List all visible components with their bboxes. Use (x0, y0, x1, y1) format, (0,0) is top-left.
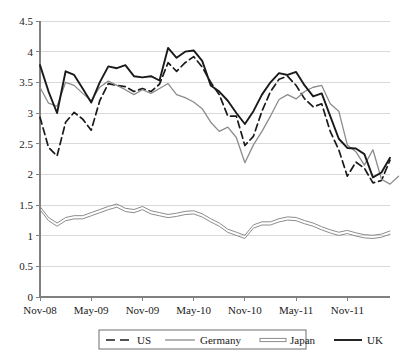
x-axis-tick-label: May-09 (74, 304, 109, 316)
chart-legend: USGermanyJapanUK (99, 330, 383, 349)
y-axis-tick-label: 1 (28, 230, 34, 242)
legend-label-germany: Germany (200, 334, 241, 346)
line-chart: 00.511.522.533.544.5 Nov-08May-09Nov-09M… (0, 0, 404, 363)
x-axis-tick-label: May-10 (176, 304, 211, 316)
legend-label-us: US (137, 334, 151, 346)
y-axis-tick-label: 3.5 (19, 76, 33, 88)
y-axis-tick-label: 1.5 (19, 199, 33, 211)
y-axis-tick-label: 0 (28, 291, 34, 303)
x-axis-tick-label: Nov-11 (331, 304, 364, 316)
chart-canvas: 00.511.522.533.544.5 Nov-08May-09Nov-09M… (0, 0, 404, 363)
y-axis-tick-label: 4.5 (19, 15, 33, 27)
legend-label-japan: Japan (290, 334, 316, 346)
y-axis-tick-label: 2 (28, 168, 34, 180)
series-line-japan (40, 204, 390, 235)
y-axis-tick-label: 0.5 (19, 260, 33, 272)
x-axis-labels-group: Nov-08May-09Nov-09May-10Nov-10May-11Nov-… (23, 304, 364, 316)
x-axis-tick-label: Nov-09 (126, 304, 160, 316)
y-axis-tick-label: 2.5 (19, 138, 33, 150)
y-axis-tick-label: 4 (28, 46, 34, 58)
x-axis-tick-label: Nov-08 (23, 304, 57, 316)
x-axis-tick-label: Nov-10 (228, 304, 262, 316)
legend-label-uk: UK (367, 334, 383, 346)
gridlines-group (40, 21, 390, 266)
x-axis-tick-label: May-11 (279, 304, 313, 316)
y-axis-labels-group: 00.511.522.533.544.5 (19, 15, 33, 303)
y-axis-tick-label: 3 (28, 107, 34, 119)
series-line-us (40, 57, 390, 183)
